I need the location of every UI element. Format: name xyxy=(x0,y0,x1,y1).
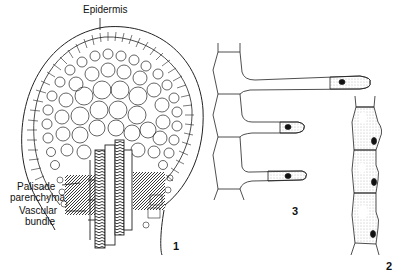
panel-number-1: 1 xyxy=(173,240,179,252)
figure-3-tubular-cells xyxy=(213,43,370,200)
diagram-canvas xyxy=(0,0,414,277)
label-palisade-line2: parenchyma xyxy=(10,192,65,203)
label-vascular-line2: bundle xyxy=(25,216,55,227)
label-vascular-line1: Vascular xyxy=(19,205,57,216)
panel-number-2: 2 xyxy=(386,260,392,272)
label-epidermis: Epidermis xyxy=(83,4,127,15)
figure-2-cell-chain xyxy=(351,96,382,255)
label-palisade-line1: Palisade xyxy=(17,181,55,192)
panel-number-3: 3 xyxy=(292,205,298,217)
